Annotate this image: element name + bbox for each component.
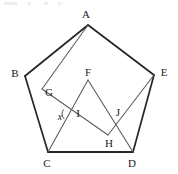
label-D: D: [128, 158, 136, 169]
edge-EA: [88, 25, 154, 75]
edge-DE: [133, 75, 154, 152]
label-I: I: [76, 108, 80, 119]
label-C: C: [43, 158, 50, 169]
label-H: H: [105, 138, 113, 149]
edge-CF: [48, 80, 88, 152]
angle-arc-x: [62, 110, 64, 119]
inner-polyline: [42, 25, 154, 152]
label-E: E: [161, 67, 168, 78]
label-F: F: [85, 67, 91, 78]
label-J: J: [116, 107, 120, 118]
label-B: B: [11, 68, 18, 79]
label-angle-x: x: [58, 111, 62, 122]
geometry-canvas: [0, 0, 178, 174]
label-G: G: [45, 87, 53, 98]
geometry-diagram: A B C D E F G H I J x: [0, 0, 178, 174]
label-A: A: [82, 9, 90, 20]
